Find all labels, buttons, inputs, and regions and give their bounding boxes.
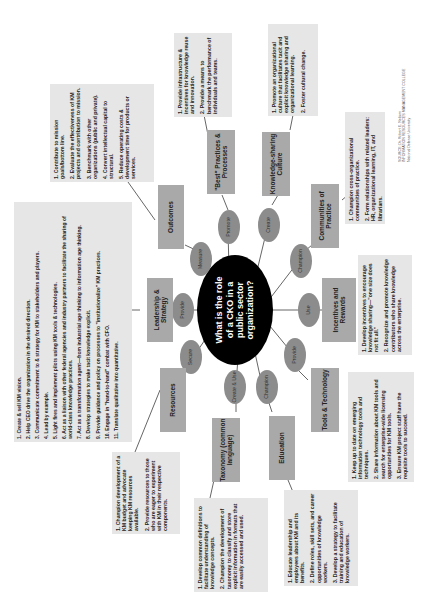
verb-champion-communities: Champion (290, 244, 312, 278)
notes-leadership: 1. Create & sell KM vision. 2. Help CEO … (14, 202, 132, 442)
verb-provide-tools: Provide (284, 338, 306, 372)
category-tools: Tools & Technology (311, 368, 339, 432)
notes-outcomes: 1. Contribute to mission goals/bottom li… (50, 84, 154, 182)
verb-champion-education: Champion (256, 370, 278, 404)
category-incentives: Incentives and Rewards (322, 278, 356, 342)
notes-knowledge-culture: 1. Promote an organizational culture tha… (268, 24, 318, 116)
category-education: Education (269, 416, 295, 480)
notes-resources: 1. Champion development of a KM budget a… (112, 452, 180, 534)
verb-use: Use (298, 293, 320, 327)
category-taxonomy: Taxonomy (common language) (212, 418, 240, 482)
notes-incentives: 1. Develop incentives to encourage knowl… (358, 255, 412, 355)
notes-education: 1. Educate leadership and employees abou… (284, 490, 358, 586)
source-attribution: SOURCE: Dr. Robert E. Neilson INFORMATIO… (398, 22, 418, 162)
verb-provide-leadership: Provide (172, 293, 194, 327)
mind-map-diagram: What is the role of a CKO in a public se… (0, 0, 429, 592)
title-line: public sector (235, 277, 245, 344)
verb-create-use: Create & Use (224, 370, 246, 404)
category-outcomes: Outcomes (158, 185, 184, 249)
category-knowledge-culture: Knowledge-sharing Culture (262, 132, 290, 196)
category-communities: Communities of Practice (311, 184, 339, 248)
verb-promote: Promote (218, 210, 240, 244)
verb-create: Create (258, 208, 280, 242)
notes-best-practices: 1. Provide infrastructure & incentives f… (174, 33, 232, 117)
category-leadership: Leadership & Strategy (147, 278, 173, 342)
title-line: organization? (245, 277, 255, 344)
title-line: What is the role (214, 277, 224, 344)
category-best-practices: "Best" Practices & Processes (207, 130, 235, 194)
notes-tools: 1. Keep up to date on emerging informati… (348, 372, 414, 482)
verb-measure: Measure (190, 242, 212, 276)
title-line: of a CKO in a (225, 277, 235, 344)
notes-taxonomy: 1. Develop common definitions to facilit… (194, 498, 268, 592)
category-resources: Resources (160, 368, 186, 432)
notes-communities: 1. Champion cross-organizational communi… (345, 112, 385, 224)
